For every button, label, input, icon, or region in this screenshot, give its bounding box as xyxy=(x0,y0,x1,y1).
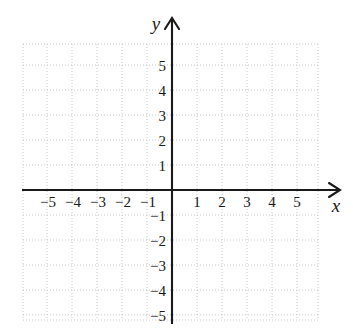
x-tick-label: −2 xyxy=(115,194,131,210)
x-tick-label: 5 xyxy=(293,194,301,210)
coordinate-plane-figure: −5−4−3−2−112345 54321−1−2−3−4−5 x y xyxy=(0,0,353,334)
y-tick-label: −5 xyxy=(150,308,166,324)
coordinate-plane-canvas: −5−4−3−2−112345 54321−1−2−3−4−5 x y xyxy=(0,0,353,334)
y-tick-label: 3 xyxy=(159,108,167,124)
y-tick-label: −1 xyxy=(150,208,166,224)
x-tick-label: −5 xyxy=(40,194,56,210)
x-tick-label: −3 xyxy=(90,194,106,210)
x-tick-label: 4 xyxy=(268,194,276,210)
y-tick-label: −3 xyxy=(150,258,166,274)
figure-background xyxy=(0,0,353,334)
y-tick-label: 2 xyxy=(159,133,167,149)
y-tick-label: 4 xyxy=(159,83,167,99)
x-tick-label: −4 xyxy=(65,194,81,210)
x-tick-label: 2 xyxy=(218,194,226,210)
x-tick-label: 1 xyxy=(193,194,201,210)
x-axis-label: x xyxy=(331,195,341,216)
y-axis-label: y xyxy=(150,13,161,34)
y-tick-label: 1 xyxy=(159,158,167,174)
y-tick-label: −4 xyxy=(150,283,166,299)
y-tick-label: 5 xyxy=(159,58,167,74)
x-tick-label: 3 xyxy=(243,194,251,210)
y-tick-label: −2 xyxy=(150,233,166,249)
